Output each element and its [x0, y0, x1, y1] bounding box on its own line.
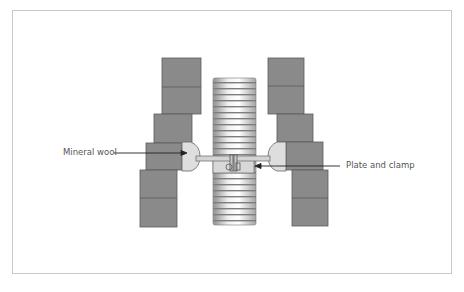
- mineral-wool-label: Mineral wool: [63, 147, 117, 157]
- left-block-1: [162, 58, 201, 114]
- corrugated-pipe: [213, 78, 256, 225]
- clamp-band: [213, 160, 254, 173]
- mineral-wool-right: [268, 142, 286, 171]
- left-block-3: [146, 143, 182, 170]
- plate-and-clamp-label: Plate and clamp: [346, 160, 415, 170]
- left-block-4: [140, 170, 177, 227]
- right-block-2: [277, 114, 313, 142]
- pipe-penetration-diagram: [0, 0, 464, 292]
- left-block-2: [154, 114, 192, 143]
